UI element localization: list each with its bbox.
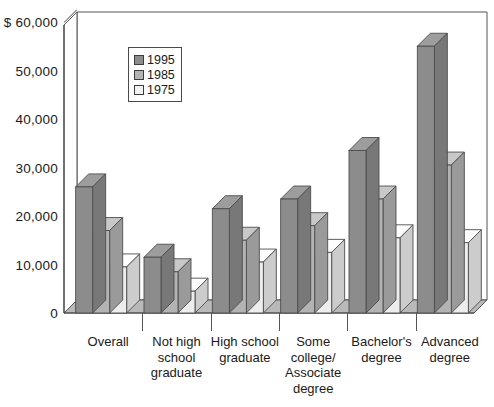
x-axis-tick-mark <box>347 313 348 331</box>
legend-item: 1985 <box>134 67 175 82</box>
legend-item: 1975 <box>134 82 175 97</box>
legend-item: 1995 <box>134 52 175 67</box>
bar-1995-5 <box>417 33 447 313</box>
bar-1995-0 <box>76 174 106 313</box>
legend-label-1975: 1975 <box>147 84 175 96</box>
legend-label-1985: 1985 <box>147 69 175 81</box>
legend: 1995 1985 1975 <box>128 47 182 102</box>
x-axis-tick-mark <box>211 313 212 331</box>
bar-chart: 010,00020,00030,00040,00050,000$ 60,000 … <box>0 0 494 407</box>
legend-swatch-1985 <box>134 70 144 80</box>
legend-swatch-1995 <box>134 55 144 65</box>
x-axis-tick-mark <box>142 313 143 331</box>
x-axis-tick-mark <box>416 313 417 331</box>
legend-label-1995: 1995 <box>147 54 175 66</box>
bar-1995-4 <box>349 138 379 313</box>
bar-1995-2 <box>212 196 242 313</box>
bar-1995-1 <box>144 244 174 313</box>
x-axis-tick-label: Advanced degree <box>395 334 494 365</box>
legend-swatch-1975 <box>134 85 144 95</box>
bar-1995-3 <box>281 186 311 313</box>
x-axis-tick-mark <box>279 313 280 331</box>
